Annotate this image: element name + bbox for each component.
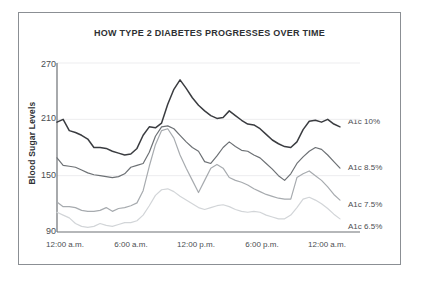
gridlines [57,63,360,176]
series-lines [57,80,340,227]
chart-plot-area [0,0,422,285]
series-line-a1c-8-5 [57,126,340,180]
chart-canvas: HOW TYPE 2 DIABETES PROGRESSES OVER TIME… [0,0,422,285]
series-line-a1c-10 [57,80,340,155]
series-line-a1c-6-5 [57,189,340,228]
